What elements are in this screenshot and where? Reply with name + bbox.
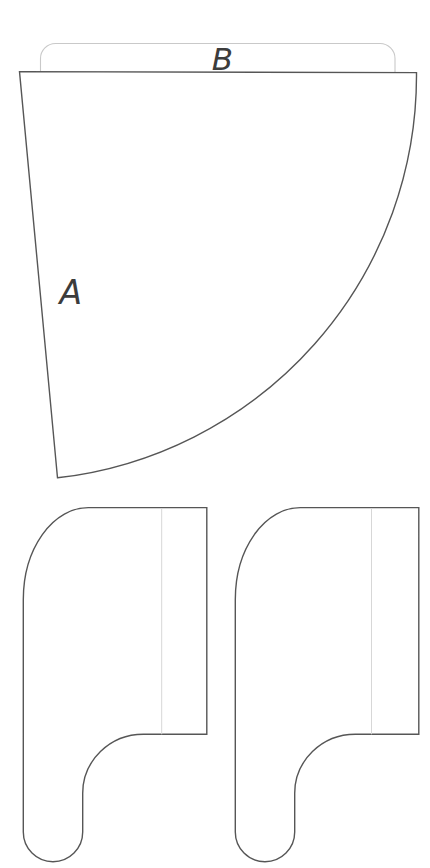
bottom-piece-right-outline <box>235 508 418 862</box>
pieces-layer <box>20 72 419 862</box>
piece-b-label: B <box>212 41 233 77</box>
piece-a-label: A <box>58 273 83 312</box>
pattern-diagram: A B <box>0 0 430 868</box>
bottom-piece-left-outline <box>23 508 207 862</box>
pattern-diagram-page: A B <box>0 0 430 868</box>
bottom-piece-right <box>235 508 418 862</box>
